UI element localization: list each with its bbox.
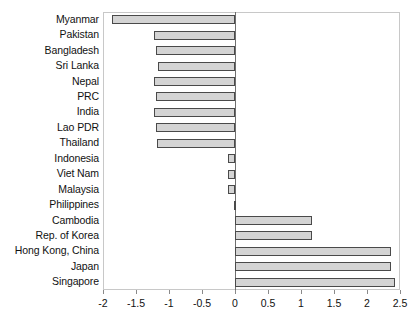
bar bbox=[235, 262, 391, 271]
x-tick-mark bbox=[367, 290, 368, 294]
x-tick-mark bbox=[103, 290, 104, 294]
x-tick-label: -1 bbox=[164, 297, 173, 309]
bar bbox=[157, 139, 235, 148]
bar bbox=[228, 185, 235, 194]
category-label: Viet Nam bbox=[0, 168, 99, 179]
bar bbox=[158, 62, 235, 71]
x-tick-label: -0.5 bbox=[193, 297, 211, 309]
category-label: Philippines bbox=[0, 199, 99, 210]
bar bbox=[154, 108, 235, 117]
category-label: Thailand bbox=[0, 137, 99, 148]
category-label: Rep. of Korea bbox=[0, 230, 99, 241]
category-label: Singapore bbox=[0, 276, 99, 287]
x-tick-mark bbox=[268, 290, 269, 294]
category-label: PRC bbox=[0, 91, 99, 102]
x-tick-label: 2 bbox=[364, 297, 370, 309]
bar bbox=[228, 170, 235, 179]
category-label: Japan bbox=[0, 261, 99, 272]
plot-area bbox=[103, 12, 400, 290]
x-tick-mark bbox=[334, 290, 335, 294]
x-tick-mark bbox=[136, 290, 137, 294]
x-tick-label: 2.5 bbox=[393, 297, 408, 309]
category-label: Cambodia bbox=[0, 215, 99, 226]
bar bbox=[154, 77, 235, 86]
category-axis: MyanmarPakistanBangladeshSri LankaNepalP… bbox=[0, 12, 99, 290]
bar bbox=[156, 46, 235, 55]
bar bbox=[228, 154, 235, 163]
category-label: Lao PDR bbox=[0, 122, 99, 133]
bar bbox=[235, 231, 312, 240]
x-tick-mark bbox=[400, 290, 401, 294]
category-label: Indonesia bbox=[0, 153, 99, 164]
x-tick-mark bbox=[169, 290, 170, 294]
x-tick-label: 1.5 bbox=[327, 297, 342, 309]
bar bbox=[235, 247, 391, 256]
bar bbox=[156, 123, 235, 132]
x-tick-label: -1.5 bbox=[127, 297, 145, 309]
category-label: Pakistan bbox=[0, 29, 99, 40]
bar-chart: MyanmarPakistanBangladeshSri LankaNepalP… bbox=[0, 0, 413, 324]
x-tick-label: 0 bbox=[232, 297, 238, 309]
category-label: Hong Kong, China bbox=[0, 245, 99, 256]
category-label: Malaysia bbox=[0, 184, 99, 195]
bar bbox=[235, 278, 395, 287]
x-tick-mark bbox=[301, 290, 302, 294]
bar bbox=[235, 216, 312, 225]
category-label: India bbox=[0, 106, 99, 117]
x-axis: -2-1.5-1-0.500.511.522.5 bbox=[103, 290, 400, 324]
bar bbox=[112, 15, 235, 24]
x-tick-mark bbox=[202, 290, 203, 294]
category-label: Myanmar bbox=[0, 14, 99, 25]
category-label: Sri Lanka bbox=[0, 60, 99, 71]
category-label: Nepal bbox=[0, 76, 99, 87]
x-tick-label: 0.5 bbox=[261, 297, 276, 309]
x-tick-label: 1 bbox=[298, 297, 304, 309]
bar bbox=[156, 92, 235, 101]
bar bbox=[154, 31, 235, 40]
x-tick-label: -2 bbox=[98, 297, 107, 309]
bar bbox=[234, 201, 236, 210]
x-tick-mark bbox=[235, 290, 236, 294]
category-label: Bangladesh bbox=[0, 45, 99, 56]
